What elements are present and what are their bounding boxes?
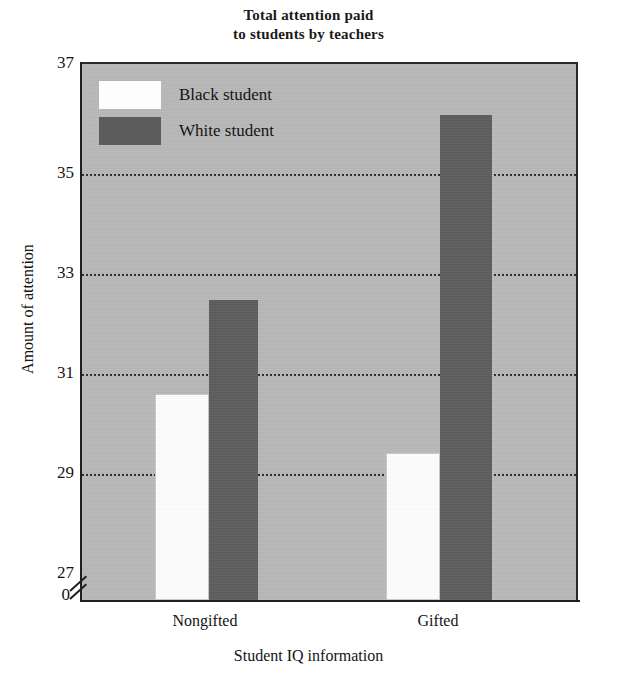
chart-page: Total attention paid to students by teac… [0, 0, 617, 679]
x-axis-line [80, 600, 580, 602]
chart-title: Total attention paid to students by teac… [0, 6, 617, 44]
y-axis-title: Amount of attention [19, 189, 37, 429]
chart-title-line-2: to students by teachers [0, 25, 617, 44]
chart-title-line-1: Total attention paid [0, 6, 617, 25]
gridline-33 [82, 274, 576, 276]
bar-nongifted-black-student [155, 394, 209, 600]
bar-nongifted-white-student [209, 300, 258, 600]
legend-label-black-student: Black student [179, 85, 272, 105]
legend: Black student White student [99, 79, 339, 151]
y-tick-label-31: 31 [4, 364, 74, 381]
y-tick-label-27: 27 [4, 564, 74, 581]
y-tick-label-33: 33 [4, 264, 74, 281]
x-axis-title: Student IQ information [0, 647, 617, 665]
y-axis-origin-label: 0 [0, 586, 70, 603]
bar-gifted-white-student [440, 115, 492, 600]
gridline-31 [82, 374, 576, 376]
x-tick-label-nongifted: Nongifted [145, 612, 265, 630]
x-tick-label-gifted: Gifted [378, 612, 498, 630]
y-tick-label-29: 29 [4, 464, 74, 481]
gridline-35 [82, 174, 576, 176]
y-tick-label-35: 35 [4, 164, 74, 181]
legend-swatch-black-student [99, 81, 161, 109]
y-axis-ticks: 37 35 33 31 29 27 0 [0, 0, 74, 679]
bar-gifted-black-student [386, 453, 440, 600]
legend-label-white-student: White student [179, 121, 274, 141]
legend-swatch-white-student [99, 117, 161, 145]
y-axis-line [80, 62, 82, 602]
legend-item-black-student: Black student [99, 79, 339, 111]
legend-item-white-student: White student [99, 115, 339, 147]
y-tick-label-37: 37 [4, 54, 74, 71]
